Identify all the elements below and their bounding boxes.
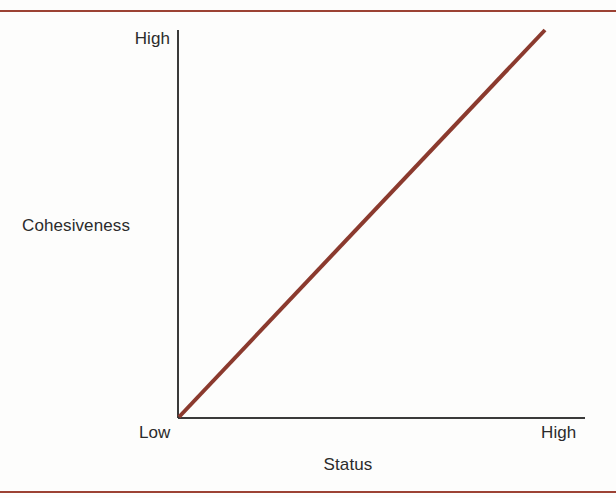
figure-container: High Cohesiveness Low High Status [0,0,616,498]
y-axis-tick-label-high: High [135,30,170,47]
chart-svg [0,0,616,498]
plot-area: High Cohesiveness Low High Status [0,0,616,498]
data-line-status-cohesiveness [179,30,545,417]
x-axis-tick-label-high: High [541,424,576,441]
y-axis-title: Cohesiveness [22,217,130,234]
x-axis-title: Status [0,456,616,473]
x-axis-tick-label-low: Low [139,424,171,441]
